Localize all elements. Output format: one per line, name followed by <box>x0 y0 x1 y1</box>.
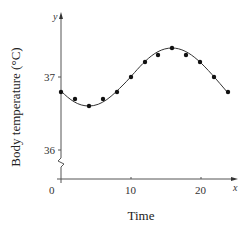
x-tick-label-10: 10 <box>125 184 137 196</box>
data-point <box>143 60 147 64</box>
y-tick-label-36: 36 <box>44 144 56 156</box>
y-tick-label-37: 37 <box>44 71 56 83</box>
data-points <box>59 46 230 108</box>
y-axis-title: Body temperature (°C) <box>8 47 23 166</box>
data-point <box>129 75 133 79</box>
x-tick-label-0: 0 <box>49 184 55 196</box>
data-point <box>198 60 202 64</box>
y-axis-arrow <box>59 12 63 19</box>
fitted-curve <box>61 48 228 106</box>
data-point <box>226 90 230 94</box>
data-point <box>115 90 119 94</box>
x-axis-arrow <box>231 177 238 181</box>
data-point <box>87 104 91 108</box>
x-tick-label-20: 20 <box>195 184 207 196</box>
x-axis-title: Time <box>128 208 155 223</box>
y-axis-break <box>58 158 64 167</box>
data-point <box>156 53 160 57</box>
data-point <box>73 97 77 101</box>
data-point <box>184 53 188 57</box>
data-point <box>212 75 216 79</box>
x-axis-letter: x <box>232 182 238 193</box>
data-point <box>101 97 105 101</box>
y-axis-letter: y <box>52 11 58 22</box>
data-point <box>59 90 63 94</box>
chart: y x 37 36 0 10 20 Body temperature (°C) … <box>0 0 247 225</box>
data-point <box>170 46 174 50</box>
